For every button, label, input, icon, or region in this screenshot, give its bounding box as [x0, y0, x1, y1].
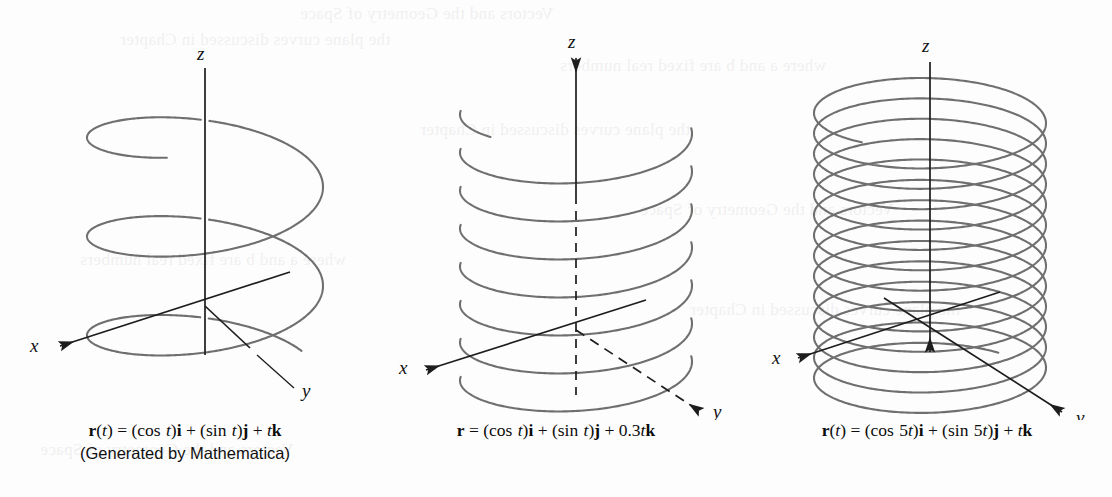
x-axis: [426, 300, 646, 370]
caption-formula: r(t) = (cos 5t)i + (sin 5t)j + tk: [742, 418, 1112, 442]
figure-panel-helix-fast-spin: x y z r(t) = (cos 5t)i + (sin 5t)j + tk: [742, 0, 1112, 497]
caption-formula: r(t) = (cos t)i + (sin t)j + tk: [0, 418, 370, 442]
y-label-leader-line: [257, 355, 294, 388]
caption-formula: r = (cos t)i + (sin t)j + 0.3tk: [371, 418, 741, 442]
helix-slow-rise-diagram: x y z: [371, 0, 741, 420]
x-axis-label: x: [771, 347, 781, 368]
axes-group: [426, 58, 701, 412]
z-axis-label: z: [567, 31, 576, 52]
y-axis: [205, 306, 250, 348]
x-axis: [60, 272, 290, 346]
helix-standard-diagram: x y z: [0, 0, 370, 420]
y-axis: [884, 298, 1062, 412]
figure-panel-helix-standard: x y z r(t) = (cos t)i + (sin t)j + tk (G…: [0, 0, 370, 497]
x-axis-label: x: [29, 335, 39, 356]
figure-caption-helix-standard: r(t) = (cos t)i + (sin t)j + tk (Generat…: [0, 418, 370, 465]
y-axis-label: y: [300, 380, 311, 401]
figure-caption-helix-slow-rise: r = (cos t)i + (sin t)j + 0.3tk: [371, 418, 741, 442]
z-axis-label: z: [921, 35, 930, 56]
figure-row: x y z r(t) = (cos t)i + (sin t)j + tk (G…: [0, 0, 1112, 497]
x-axis-label: x: [398, 357, 408, 378]
z-axis-label: z: [196, 43, 205, 64]
caption-note: (Generated by Mathematica): [0, 442, 370, 465]
helix-fast-spin-diagram: x y z: [742, 0, 1112, 420]
figure-caption-helix-fast-spin: r(t) = (cos 5t)i + (sin 5t)j + tk: [742, 418, 1112, 442]
figure-panel-helix-slow-rise: x y z r = (cos t)i + (sin t)j + 0.3tk: [371, 0, 741, 497]
